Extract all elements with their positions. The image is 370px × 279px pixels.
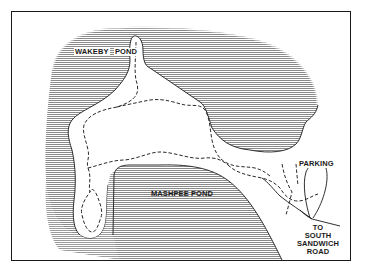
wakeby-pond-label-left: WAKEBY xyxy=(74,48,110,56)
mashpee-pond-label: MASHPEE POND xyxy=(151,190,213,198)
trail-parking-spur-1 xyxy=(282,164,292,215)
mashpee-pond-water xyxy=(113,165,282,260)
trail-south-loop xyxy=(81,168,101,232)
road-label-line-4: ROAD xyxy=(293,248,343,256)
wakeby-pond-label-right: POND xyxy=(114,48,138,56)
trail-west-loop xyxy=(83,107,117,168)
road-label: TO SOUTH SANDWICH ROAD xyxy=(293,224,343,256)
parking-label: PARKING xyxy=(298,160,335,168)
parking-loop-road[interactable] xyxy=(262,162,340,226)
